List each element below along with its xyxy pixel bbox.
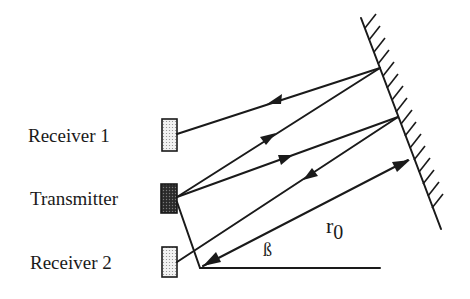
receiver2-label: Receiver 2: [30, 252, 112, 273]
receiver1-box: [162, 119, 177, 151]
receiver2-box: [162, 247, 177, 277]
ray-wall-2-to-rx2: [177, 117, 398, 262]
arrow-icon: [267, 94, 282, 104]
arrow-icon: [278, 155, 293, 165]
transmitter-box: [161, 184, 177, 213]
arrow-icon: [203, 252, 221, 266]
angle-beta-label: ß: [263, 240, 272, 260]
ray-paths: [177, 68, 408, 268]
wall-hatching: [365, 14, 443, 208]
transmitter-label: Transmitter: [30, 188, 119, 209]
baseline-link: [177, 202, 200, 268]
range-label: r0: [326, 213, 343, 243]
receiver1-label: Receiver 1: [28, 125, 110, 146]
diagram-canvas: Receiver 1 Transmitter Receiver 2: [0, 0, 470, 299]
reflecting-wall: [361, 14, 443, 229]
arrow-icon: [392, 160, 410, 172]
arrowheads: [203, 94, 410, 266]
ray-tx-to-wall-1: [177, 68, 380, 197]
